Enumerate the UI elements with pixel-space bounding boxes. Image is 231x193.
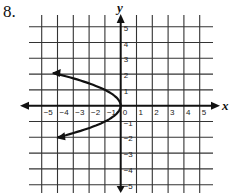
x-tick-label: −5: [44, 108, 54, 117]
tick-labels: −5−4−3−2−101234554321−1−2−3−4−5: [44, 24, 207, 191]
y-tick-label: −4: [124, 166, 134, 175]
y-axis-label: y: [115, 0, 123, 15]
x-tick-label: 0: [123, 108, 128, 117]
y-axis-up-arrow-icon: [117, 14, 125, 23]
x-tick-label: 3: [170, 108, 175, 117]
y-tick-label: 3: [124, 55, 129, 64]
x-tick-label: 4: [186, 108, 191, 117]
x-tick-label: −3: [75, 108, 85, 117]
x-axis-left-arrow-icon: [20, 102, 29, 110]
y-tick-label: −5: [124, 182, 134, 191]
parabola-curve: [52, 69, 121, 140]
y-tick-label: 4: [124, 40, 129, 49]
x-tick-label: 1: [139, 108, 144, 117]
x-tick-label: −2: [91, 108, 101, 117]
x-tick-label: 5: [202, 108, 207, 117]
y-tick-label: 1: [124, 87, 129, 96]
y-tick-label: −3: [124, 150, 134, 159]
x-axis-right-arrow-icon: [211, 102, 220, 110]
y-tick-label: −1: [124, 119, 134, 128]
x-tick-label: −4: [60, 108, 70, 117]
y-tick-label: 2: [124, 71, 129, 80]
coordinate-plane: −5−4−3−2−101234554321−1−2−3−4−5 y x: [0, 0, 231, 193]
curve-upper-arrow-icon: [52, 69, 61, 77]
x-axis-label: x: [221, 98, 229, 113]
x-tick-label: 2: [154, 108, 159, 117]
y-tick-label: −2: [124, 134, 134, 143]
y-tick-label: 5: [124, 24, 129, 33]
